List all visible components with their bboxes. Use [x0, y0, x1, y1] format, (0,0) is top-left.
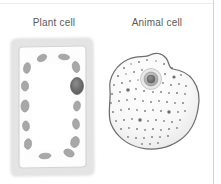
figure-top-rule — [0, 3, 214, 4]
ribosome — [171, 67, 173, 69]
ribosome — [149, 143, 151, 145]
ribosome — [160, 110, 162, 112]
ribosome — [131, 118, 133, 120]
ribosome — [110, 102, 112, 104]
ribosome — [155, 119, 157, 121]
ribosome — [121, 82, 123, 84]
ribosome — [167, 135, 169, 137]
ribosome — [179, 119, 181, 121]
figure-right-rule — [213, 0, 214, 184]
plant-cell-diagram — [6, 34, 98, 180]
ribosome — [117, 75, 119, 77]
ribosome — [112, 111, 114, 113]
ribosome — [129, 80, 131, 82]
ribosome — [146, 59, 148, 61]
ribosome — [151, 136, 153, 138]
ribosome — [120, 109, 122, 111]
ribosome — [164, 73, 166, 75]
ribosome — [159, 136, 161, 138]
ribosome — [168, 128, 170, 130]
ribosome — [137, 79, 139, 81]
plant-cell-nucleus — [71, 78, 84, 95]
ribosome — [143, 90, 145, 92]
ribosome — [160, 129, 162, 131]
ribosome — [143, 137, 145, 139]
ribosome — [166, 101, 168, 103]
ribosome — [170, 84, 172, 86]
organelle — [167, 110, 170, 113]
ribosome — [127, 136, 129, 138]
plant-nucleus-body — [71, 78, 84, 95]
ribosome — [136, 128, 138, 130]
ribosome — [144, 110, 146, 112]
ribosome — [152, 91, 154, 93]
organelle — [126, 88, 130, 92]
nucleolus — [147, 75, 155, 83]
ribosome — [184, 110, 186, 112]
ribosome — [126, 99, 128, 101]
ribosome — [176, 92, 178, 94]
ribosome — [152, 109, 154, 111]
ribosome — [168, 92, 170, 94]
ribosome — [177, 111, 179, 113]
animal-cell-membrane — [109, 53, 199, 149]
ribosome — [158, 100, 160, 102]
ribosome — [133, 71, 135, 73]
ribosome — [115, 120, 117, 122]
ribosome — [144, 129, 146, 131]
ribosome — [125, 73, 127, 75]
ribosome — [128, 127, 130, 129]
ribosome — [171, 121, 173, 123]
animal-cell-diagram — [98, 46, 208, 158]
ribosome — [160, 91, 162, 93]
ribosome — [135, 88, 137, 90]
ribosome — [180, 74, 182, 76]
ribosome — [135, 137, 137, 139]
ribosome — [119, 91, 121, 93]
ribosome — [136, 109, 138, 111]
organelle — [138, 118, 142, 122]
ribosome — [184, 93, 186, 95]
organelle — [172, 75, 175, 78]
ribosome — [155, 60, 157, 62]
chloroplast — [39, 153, 51, 159]
ribosome — [141, 143, 143, 145]
ribosome — [118, 100, 120, 102]
ribosome — [185, 85, 187, 87]
ribosome — [123, 67, 125, 69]
cell-comparison-figure: Plant cell Animal cell — [0, 0, 221, 184]
ribosome — [163, 63, 165, 65]
animal-cell-nucleus — [141, 69, 162, 90]
ribosome — [174, 102, 176, 104]
ribosome — [113, 84, 115, 86]
plant-cell-label: Plant cell — [8, 17, 100, 28]
plant-cell-vacuole — [32, 64, 73, 150]
ribosome — [138, 61, 140, 63]
ribosome — [152, 128, 154, 130]
ribosome — [163, 120, 165, 122]
ribosome — [141, 69, 143, 71]
ribosome — [162, 82, 164, 84]
ribosome — [142, 100, 144, 102]
animal-cell-label: Animal cell — [107, 17, 207, 28]
ribosome — [178, 83, 180, 85]
ribosome — [182, 102, 184, 104]
ribosome — [150, 101, 152, 103]
ribosome — [128, 108, 130, 110]
ribosome — [147, 120, 149, 122]
ribosome — [111, 93, 113, 95]
ribosome — [130, 63, 132, 65]
ribosome — [157, 142, 159, 144]
ribosome — [120, 128, 122, 130]
ribosome — [134, 98, 136, 100]
ribosome — [176, 127, 178, 129]
ribosome — [123, 119, 125, 121]
